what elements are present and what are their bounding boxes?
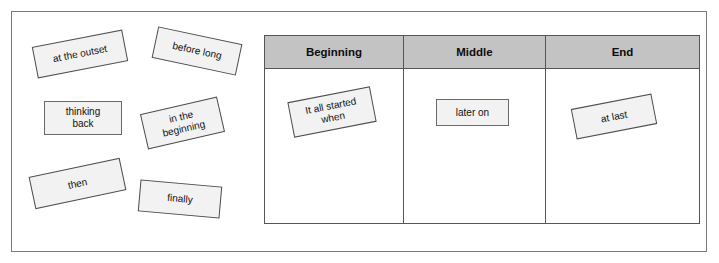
word-card-label: thinking back [66, 106, 100, 130]
word-card-label: in the beginning [159, 106, 207, 139]
table-cell-beginning[interactable]: It all started when [265, 69, 404, 223]
table-header-row: Beginning Middle End [265, 36, 699, 69]
table-header-label: Middle [456, 46, 492, 58]
word-card-label: then [67, 176, 89, 192]
word-card-label: It all started when [304, 95, 359, 128]
word-card-label: before long [171, 40, 222, 62]
word-card-label: finally [167, 192, 194, 206]
word-card-it-all-started-when[interactable]: It all started when [287, 86, 376, 137]
word-card-label: at the outset [52, 43, 108, 65]
worksheet-screen: at the outset before long thinking back … [0, 0, 719, 263]
story-structure-table: Beginning Middle End It all started when… [264, 35, 700, 224]
word-card-at-last[interactable]: at last [571, 93, 657, 139]
table-cell-middle[interactable]: later on [404, 69, 546, 223]
word-card-label: later on [456, 107, 489, 119]
table-header-end: End [546, 36, 699, 68]
word-card-thinking-back[interactable]: thinking back [44, 101, 122, 135]
table-header-middle: Middle [404, 36, 546, 68]
word-card-later-on[interactable]: later on [436, 99, 509, 126]
word-card-label: at last [600, 108, 628, 125]
table-cell-end[interactable]: at last [546, 69, 699, 223]
table-body-row: It all started when later on at last [265, 69, 699, 223]
table-header-label: Beginning [306, 46, 362, 58]
table-header-beginning: Beginning [265, 36, 404, 68]
table-header-label: End [612, 46, 634, 58]
